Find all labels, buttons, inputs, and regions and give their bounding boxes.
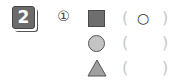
- open-paren: (: [122, 34, 128, 52]
- close-paren: ): [162, 34, 168, 52]
- item-marker: ①: [56, 9, 71, 24]
- open-paren: (: [122, 9, 128, 27]
- question-number-badge: 2: [12, 6, 35, 29]
- circle-icon: [88, 35, 105, 52]
- close-paren: ): [162, 9, 168, 27]
- open-paren: (: [122, 59, 128, 77]
- answer-field[interactable]: ○: [130, 9, 156, 27]
- close-paren: ): [162, 59, 168, 77]
- triangle-icon: [87, 59, 107, 77]
- square-icon: [88, 10, 105, 27]
